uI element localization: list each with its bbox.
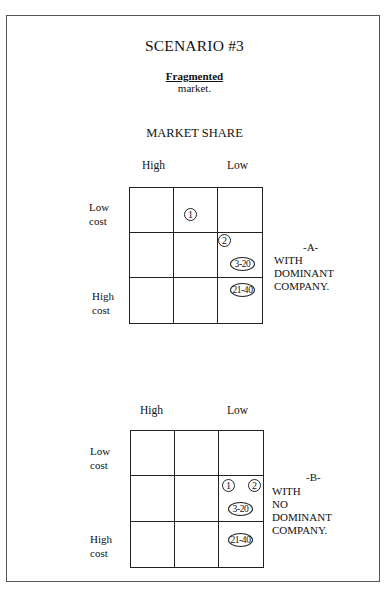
grid-cell: [175, 522, 219, 567]
grid-cell: [175, 431, 219, 476]
matrix-grid: 1 2 3-20 21-40: [130, 430, 264, 568]
caption-line: COMPANY.: [272, 524, 332, 537]
grid-cell: 1 2 3-20: [219, 476, 263, 521]
grid-cell: 21-40: [219, 522, 263, 567]
subtitle-rest: market.: [0, 82, 389, 94]
company-marker: 1: [222, 479, 235, 492]
caption-line: DOMINANT: [272, 511, 332, 524]
row-label-line: Low: [89, 200, 109, 214]
caption-line: COMPANY.: [274, 280, 334, 293]
company-marker: 2: [248, 479, 261, 492]
row-label-line: High: [92, 289, 114, 303]
matrix-caption: WITH DOMINANT COMPANY.: [274, 254, 334, 293]
grid-cell: [131, 431, 175, 476]
caption-line: NO: [272, 498, 332, 511]
company-group-marker: 21-40: [228, 533, 253, 547]
matrix-grid: 1 2 3-20 21-40: [129, 187, 263, 324]
section-title: MARKET SHARE: [0, 126, 389, 141]
subtitle-underlined: Fragmented: [0, 70, 389, 82]
company-marker: 1: [184, 208, 197, 221]
grid-cell: 21-40: [218, 278, 262, 323]
grid-cell: [175, 476, 219, 521]
page-title: SCENARIO #3: [0, 37, 389, 55]
caption-letter: -A-: [303, 241, 318, 254]
row-label-line: cost: [90, 458, 110, 472]
caption-letter: -B-: [306, 471, 321, 484]
grid-cell: 1: [174, 188, 218, 233]
row-label-line: cost: [92, 303, 114, 317]
row-label-high-cost: High cost: [90, 532, 112, 560]
matrix-caption: WITH NO DOMINANT COMPANY.: [272, 485, 332, 537]
company-group-marker: 3-20: [230, 257, 255, 271]
grid-cell: [218, 188, 262, 233]
col-label-low: Low: [227, 159, 248, 171]
grid-cell: [130, 233, 174, 278]
grid-cell: [130, 188, 174, 233]
col-label-low: Low: [227, 404, 248, 416]
row-label-low-cost: Low cost: [89, 200, 109, 228]
grid-cell: [174, 233, 218, 278]
row-label-line: cost: [89, 214, 109, 228]
grid-cell: 2 3-20: [218, 233, 262, 278]
row-label-line: cost: [90, 546, 112, 560]
row-label-line: Low: [90, 444, 110, 458]
row-label-low-cost: Low cost: [90, 444, 110, 472]
grid-cell: [131, 476, 175, 521]
grid-cell: [219, 431, 263, 476]
company-marker: 2: [218, 234, 231, 247]
row-label-high-cost: High cost: [92, 289, 114, 317]
col-label-high: High: [140, 404, 163, 416]
caption-line: WITH: [272, 485, 332, 498]
caption-line: DOMINANT: [274, 267, 334, 280]
grid-cell: [174, 278, 218, 323]
row-label-line: High: [90, 532, 112, 546]
caption-line: WITH: [274, 254, 334, 267]
col-label-high: High: [142, 159, 165, 171]
company-group-marker: 3-20: [228, 502, 253, 516]
grid-cell: [131, 522, 175, 567]
grid-cell: [130, 278, 174, 323]
company-group-marker: 21-40: [230, 283, 255, 297]
